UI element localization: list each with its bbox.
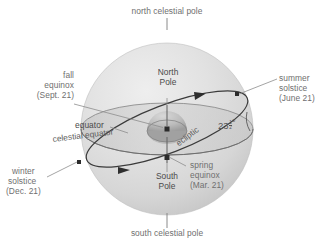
south-pole-label-line2: Pole xyxy=(139,182,195,192)
obliquity-angle-label: 2312o xyxy=(218,119,235,132)
summer-solstice-leader xyxy=(239,79,277,94)
north-celestial-pole-label: north celestial pole xyxy=(86,7,248,17)
winter-solstice-marker xyxy=(77,160,81,164)
spring-equinox-label-line3: (Mar. 21) xyxy=(190,181,224,191)
obliquity-degree-symbol: o xyxy=(233,118,236,123)
obliquity-denominator: 2 xyxy=(229,126,232,131)
spring-equinox-marker xyxy=(165,155,170,160)
winter-solstice-label-line3: (Dec. 21) xyxy=(6,187,41,197)
diagram-graphics xyxy=(0,0,326,247)
obliquity-whole: 23 xyxy=(218,120,229,131)
fall-equinox-marker xyxy=(165,127,170,132)
summer-solstice-marker xyxy=(235,92,239,96)
fall-equinox-label-line3: (Sept. 21) xyxy=(6,91,74,101)
north-pole-label-line2: Pole xyxy=(140,78,196,88)
celestial-sphere-diagram: north celestial pole south celestial pol… xyxy=(0,0,326,247)
winter-solstice-leader xyxy=(47,162,77,177)
south-celestial-pole-label: south celestial pole xyxy=(86,229,248,239)
obliquity-fraction: 12 xyxy=(229,121,232,132)
summer-solstice-label-line3: (June 21) xyxy=(279,94,315,104)
